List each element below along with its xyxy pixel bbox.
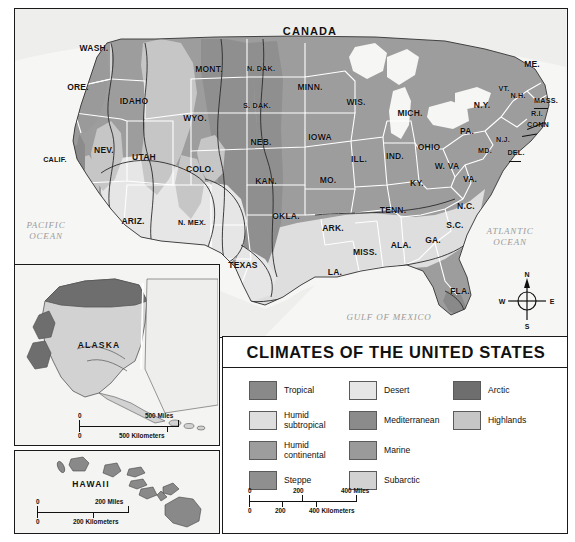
state-label-kan: KAN.: [255, 176, 277, 186]
alaska-scale-km-zero: 0: [78, 432, 82, 439]
state-label-nj: N.J.: [496, 135, 510, 144]
state-label-ga: GA.: [425, 235, 441, 245]
state-label-nev: NEV.: [94, 145, 114, 155]
state-label-ri: R.I.: [531, 109, 543, 118]
legend-swatch-marine: [349, 441, 377, 460]
state-label-nc: N.C.: [457, 201, 475, 211]
state-label-utah: UTAH: [132, 152, 156, 162]
legend-label-subarctic: Subarctic: [384, 476, 420, 486]
state-label-fla: FLA.: [450, 286, 470, 296]
state-label-wis: WIS.: [346, 97, 365, 107]
legend-item-steppe: Steppe: [249, 470, 326, 491]
state-label-nh: N.H.: [510, 91, 525, 100]
state-label-neb: NEB.: [250, 137, 271, 147]
compass-rose: N E S W: [496, 268, 558, 330]
state-label-md: MD.: [478, 146, 492, 155]
state-label-minn: MINN.: [297, 82, 322, 92]
state-label-vt: VT.: [499, 84, 510, 93]
legend-column-1: TropicalHumid subtropicalHumid continent…: [249, 380, 326, 500]
legend-swatch-humid-subtropical: [249, 411, 277, 430]
state-label-va: VA.: [463, 174, 477, 184]
state-label-iowa: IOWA: [308, 132, 331, 142]
legend-scale-miles-400: 400 Miles: [341, 487, 369, 494]
state-label-calif: CALIF.: [43, 155, 67, 164]
atlantic-ocean-label: ATLANTICOCEAN: [486, 226, 533, 248]
hawaii-scale-km-zero: 0: [36, 518, 40, 525]
gulf-of-mexico-label: GULF OF MEXICO: [346, 312, 431, 323]
legend-swatch-mediterranean: [349, 411, 377, 430]
legend-swatch-tropical: [249, 381, 277, 400]
state-label-mo: MO.: [320, 175, 337, 185]
legend-label-arctic: Arctic: [488, 386, 509, 396]
state-label-ala: ALA.: [391, 240, 412, 250]
state-label-me: ME.: [524, 59, 540, 69]
legend-label-highlands: Highlands: [488, 416, 526, 426]
compass-south-label: S: [525, 323, 530, 330]
state-label-ore: ORE.: [67, 82, 89, 92]
alaska-scale-miles-zero: 0: [78, 412, 82, 419]
state-label-mich: MICH.: [397, 108, 422, 118]
legend-label-tropical: Tropical: [284, 386, 314, 396]
legend-swatch-humid-continental: [249, 441, 277, 460]
compass-north-label: N: [524, 271, 529, 278]
legend-body: TropicalHumid subtropicalHumid continent…: [223, 368, 568, 534]
state-label-wyo: WYO.: [183, 113, 206, 123]
legend-item-arctic: Arctic: [453, 380, 526, 401]
legend-swatch-highlands: [453, 411, 481, 430]
state-label-sc: S.C.: [446, 220, 463, 230]
legend-scale-miles-0: 0: [248, 487, 252, 494]
alaska-scale-miles-value: 500 Miles: [145, 412, 173, 419]
state-label-ark: ARK.: [322, 223, 344, 233]
legend-scale-bar: 0 200 400 Miles 0 200 400 Kilometers: [249, 492, 379, 518]
hawaii-scale-miles-value: 200 Miles: [95, 498, 123, 505]
state-label-ariz: ARIZ.: [121, 216, 144, 226]
state-label-wash: WASH.: [80, 43, 109, 53]
hawaii-label: HAWAII: [72, 479, 109, 489]
hawaii-scale-km-value: 200 Kilometers: [73, 518, 118, 525]
state-label-la: LA.: [328, 267, 342, 277]
legend-item-highlands: Highlands: [453, 410, 526, 431]
state-label-ndak: N. DAK.: [247, 64, 275, 73]
legend-scale-km-0: 0: [248, 507, 252, 514]
legend-label-marine: Marine: [384, 446, 410, 456]
state-label-okla: OKLA.: [272, 211, 299, 221]
country-label-canada: CANADA: [283, 25, 337, 37]
alaska-label: ALASKA: [78, 340, 121, 350]
state-label-ill: ILL.: [351, 154, 367, 164]
state-label-texas: TEXAS: [228, 260, 257, 270]
state-label-miss: MISS.: [353, 247, 377, 257]
legend-label-desert: Desert: [384, 386, 409, 396]
legend-item-desert: Desert: [349, 380, 439, 401]
legend-scale-miles-200: 200: [293, 487, 304, 494]
legend-label-humid-subtropical: Humid subtropical: [284, 411, 326, 430]
alaska-scale-km-value: 500 Kilometers: [119, 432, 164, 439]
alaska-inset-panel: ALASKA 0 500 Miles 0 500 Kilometers: [14, 264, 220, 446]
state-label-nmex: N. MEX.: [178, 218, 206, 227]
hawaii-scale-miles-zero: 0: [36, 498, 40, 505]
state-label-mass: MASS.: [534, 96, 558, 105]
legend-item-tropical: Tropical: [249, 380, 326, 401]
state-label-tenn: TENN.: [380, 205, 407, 215]
alaska-scale-bar: 0 500 Miles 0 500 Kilometers: [79, 417, 185, 441]
state-label-ky: KY.: [410, 178, 424, 188]
hawaii-scale-bar: 0 200 Miles 0 200 Kilometers: [37, 503, 147, 527]
pacific-ocean-label: PACIFICOCEAN: [27, 220, 66, 242]
legend-scale-km-200: 200: [275, 507, 286, 514]
legend-swatch-steppe: [249, 471, 277, 490]
compass-east-label: E: [550, 298, 555, 305]
legend-title-bar: CLIMATES OF THE UNITED STATES: [223, 337, 568, 368]
legend-panel: CLIMATES OF THE UNITED STATES TropicalHu…: [222, 336, 568, 534]
state-label-ny: N.Y.: [474, 100, 490, 110]
leader-line-del: [509, 161, 521, 162]
legend-item-humid-continental: Humid continental: [249, 440, 326, 461]
legend-item-mediterranean: Mediterranean: [349, 410, 439, 431]
legend-label-mediterranean: Mediterranean: [384, 416, 439, 426]
state-label-ohio: OHIO: [418, 142, 441, 152]
legend-scale-km-400: 400 Kilometers: [309, 507, 354, 514]
legend-label-humid-continental: Humid continental: [284, 441, 326, 460]
legend-label-steppe: Steppe: [284, 476, 311, 486]
legend-item-humid-subtropical: Humid subtropical: [249, 410, 326, 431]
state-label-ind: IND.: [386, 151, 404, 161]
legend-swatch-arctic: [453, 381, 481, 400]
state-label-mont: MONT.: [195, 64, 222, 74]
